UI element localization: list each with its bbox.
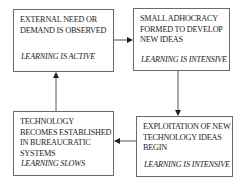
title-line: DEMAND IS OBSERVED: [20, 26, 113, 37]
title-line: TECHNOLOGY: [20, 117, 113, 128]
node-status: LEARNING SLOWS: [21, 159, 85, 170]
title-line: EXPLOITATION OF NEW: [143, 122, 232, 133]
node-title: SMALL ADHOCRACY FORMED TO DEVELOP NEW ID…: [140, 14, 229, 46]
title-line: IN BUREAUCRATIC: [20, 138, 113, 149]
title-line: SMALL ADHOCRACY: [140, 14, 229, 25]
title-line: BECOMES ESTABLISHED: [20, 128, 113, 139]
title-line: TECHNOLOGY IDEAS: [143, 133, 232, 144]
node-status: LEARNING IS INTENSIVE: [141, 55, 227, 66]
title-line: SYSTEMS: [20, 149, 113, 160]
title-line: NEW IDEAS: [140, 35, 229, 46]
title-line: EXTERNAL NEED OR: [20, 15, 113, 26]
node-exploitation: EXPLOITATION OF NEW TECHNOLOGY IDEAS BEG…: [136, 116, 233, 177]
node-external-need: EXTERNAL NEED OR DEMAND IS OBSERVED LEAR…: [13, 9, 114, 72]
node-title: TECHNOLOGY BECOMES ESTABLISHED IN BUREAU…: [20, 117, 113, 159]
title-line: FORMED TO DEVELOP: [140, 25, 229, 36]
node-title: EXPLOITATION OF NEW TECHNOLOGY IDEAS BEG…: [143, 122, 232, 154]
node-status: LEARNING IS ACTIVE: [21, 52, 95, 63]
node-technology-established: TECHNOLOGY BECOMES ESTABLISHED IN BUREAU…: [13, 111, 114, 176]
node-title: EXTERNAL NEED OR DEMAND IS OBSERVED: [20, 15, 113, 36]
node-status: LEARNING IS INTENSIVE: [144, 160, 230, 171]
title-line: BEGIN: [143, 143, 232, 154]
node-small-adhocracy: SMALL ADHOCRACY FORMED TO DEVELOP NEW ID…: [133, 8, 230, 71]
